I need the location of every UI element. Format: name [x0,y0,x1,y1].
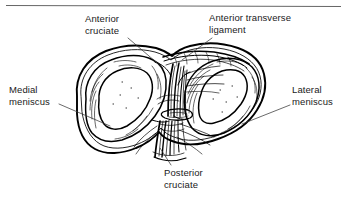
top-horizontal-rule [6,6,341,7]
label-posterior-cruciate: Posterior cruciate [164,167,203,190]
label-anterior-transverse-ligament: Anterior transverse ligament [209,12,291,35]
anterior-cruciate-ligament-bundle [161,63,224,120]
label-medial-meniscus: Medial meniscus [9,84,50,107]
label-anterior-cruciate: Anterior cruciate [85,13,119,36]
anatomy-figure: Anterior cruciate Anterior transverse li… [0,0,347,200]
label-lateral-meniscus: Lateral meniscus [292,84,333,107]
